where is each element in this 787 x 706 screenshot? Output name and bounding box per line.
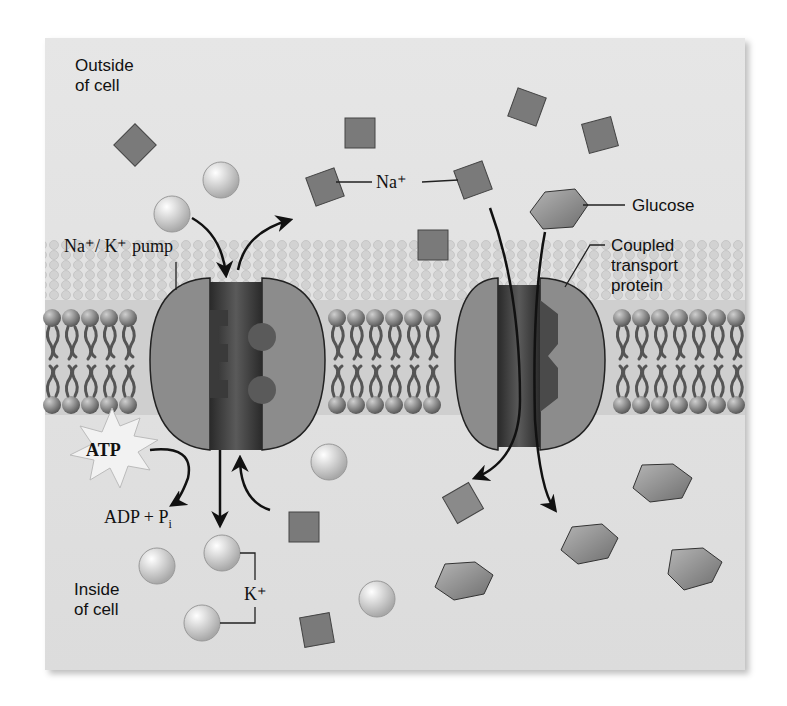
potassium-ions-inside	[139, 444, 395, 641]
na-k-pump-protein	[150, 278, 325, 450]
adp-subscript: i	[169, 517, 172, 531]
adp-pi-label: ADP + Pi	[104, 507, 172, 534]
glucose-label-text: Glucose	[632, 196, 694, 215]
inside-label-line1: Inside	[74, 580, 119, 600]
glucose-molecule-outside	[530, 189, 588, 229]
potassium-label: K⁺	[244, 584, 267, 604]
sodium-ions-outside	[114, 88, 619, 260]
inside-of-cell-label: Inside of cell	[74, 580, 119, 620]
outside-label-line1: Outside	[75, 56, 134, 76]
na-label-text: Na⁺	[376, 172, 407, 192]
coupled-label-line2: transport	[611, 256, 678, 276]
atp-label-text: ATP	[86, 440, 121, 460]
outside-of-cell-label: Outside of cell	[75, 56, 134, 96]
outside-label-line2: of cell	[75, 76, 134, 96]
sodium-label: Na⁺	[376, 172, 407, 192]
adp-label-text: ADP + P	[104, 507, 169, 527]
inside-label-line2: of cell	[74, 600, 119, 620]
k-label-text: K⁺	[244, 584, 267, 604]
glucose-molecules-inside	[435, 464, 722, 600]
coupled-transport-protein-label: Coupled transport protein	[611, 236, 678, 296]
coupled-label-line3: protein	[611, 276, 678, 296]
coupled-label-line1: Coupled	[611, 236, 678, 256]
atp-label: ATP	[86, 440, 121, 460]
pump-label-text: Na⁺/ K⁺ pump	[64, 236, 173, 256]
glucose-label: Glucose	[632, 196, 694, 216]
na-k-pump-label: Na⁺/ K⁺ pump	[64, 236, 173, 256]
coupled-transport-protein	[455, 278, 605, 450]
